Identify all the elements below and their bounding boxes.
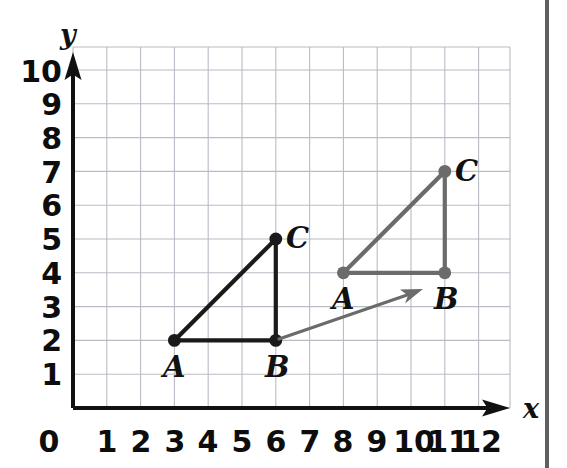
y-tick-9: 9	[41, 87, 62, 122]
x-tick-1: 1	[97, 424, 118, 459]
y-tick-2: 2	[41, 323, 62, 358]
origin-label: 0	[39, 424, 60, 459]
vertex-point-a-image	[337, 266, 350, 279]
vertex-point-c-image	[438, 165, 451, 178]
y-tick-10: 10	[20, 54, 62, 89]
vertex-label-a-image: A	[329, 282, 355, 316]
y-tick-6: 6	[41, 188, 62, 223]
x-tick-5: 5	[232, 424, 253, 459]
x-tick-7: 7	[300, 424, 321, 459]
page-divider-rule	[545, 0, 549, 468]
x-tick-3: 3	[165, 424, 186, 459]
y-tick-7: 7	[41, 155, 62, 190]
coordinate-grid-figure: y x 10 9 8 7 6 5 4 3 2 1 0 1 2 3 4 5 6 7…	[0, 0, 567, 468]
y-tick-4: 4	[41, 256, 62, 291]
x-tick-2: 2	[131, 424, 152, 459]
y-tick-5: 5	[41, 222, 62, 257]
y-axis-label: y	[59, 19, 78, 50]
vertex-label-c-image: C	[455, 154, 478, 188]
vertex-label-b-image: B	[433, 282, 459, 316]
vertex-point-b-preimage	[269, 334, 282, 347]
vertex-label-c-preimage: C	[286, 221, 309, 255]
x-tick-9: 9	[367, 424, 388, 459]
y-tick-1: 1	[41, 357, 62, 392]
vertex-label-a-preimage: A	[160, 350, 186, 384]
vertex-point-a-preimage	[168, 334, 181, 347]
y-tick-3: 3	[41, 290, 62, 325]
vertex-label-b-preimage: B	[264, 350, 290, 384]
vertex-point-b-image	[438, 266, 451, 279]
vertex-point-c-preimage	[269, 233, 282, 246]
x-tick-6: 6	[266, 424, 287, 459]
x-tick-8: 8	[333, 424, 354, 459]
y-tick-8: 8	[41, 121, 62, 156]
x-tick-12: 12	[460, 424, 502, 459]
x-tick-4: 4	[198, 424, 219, 459]
x-axis-label: x	[522, 393, 540, 424]
